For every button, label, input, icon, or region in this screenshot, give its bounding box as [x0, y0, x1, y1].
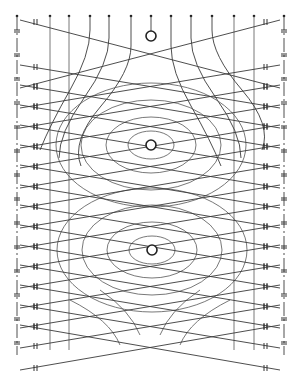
top-node: [146, 31, 156, 41]
bottom-node: [147, 245, 157, 255]
bottom-arc: [160, 290, 200, 335]
middle-node: [146, 140, 156, 150]
field-curve: [59, 16, 109, 158]
bottom-arc: [100, 290, 140, 335]
diagram-canvas: [0, 0, 299, 375]
field-curve: [191, 16, 241, 158]
line-drawing: [0, 0, 299, 375]
